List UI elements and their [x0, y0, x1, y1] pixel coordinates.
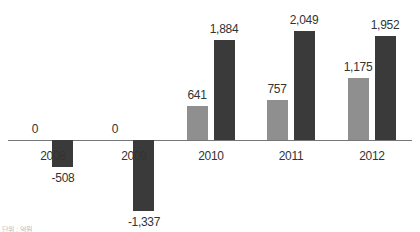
value-label-2009-dark: -1,337	[119, 215, 169, 229]
x-label-2012: 2012	[347, 149, 397, 163]
bar-chart: 0 -508 2008 0 -1,337 2009 641 1,884 2010…	[0, 0, 420, 232]
value-label-2011-dark: 2,049	[279, 13, 329, 27]
value-label-2012-dark: 1,952	[360, 18, 410, 32]
bar-2010-light	[187, 106, 208, 140]
value-label-2008-light: 0	[10, 122, 60, 136]
unit-footnote: 단위 : 억원	[2, 224, 32, 232]
value-label-2012-light: 1,175	[333, 60, 383, 74]
x-label-2010: 2010	[186, 149, 236, 163]
value-label-2009-light: 0	[90, 122, 140, 136]
bar-2012-dark	[375, 36, 396, 140]
x-label-2008: 2008	[28, 149, 78, 163]
x-label-2011: 2011	[266, 149, 316, 163]
value-label-2011-light: 757	[252, 82, 302, 96]
value-label-2010-light: 641	[172, 88, 222, 102]
bar-2012-light	[348, 78, 369, 140]
value-label-2010-dark: 1,884	[199, 22, 249, 36]
bar-2011-light	[267, 100, 288, 140]
value-label-2008-dark: -508	[38, 171, 88, 185]
x-label-2009: 2009	[109, 149, 159, 163]
